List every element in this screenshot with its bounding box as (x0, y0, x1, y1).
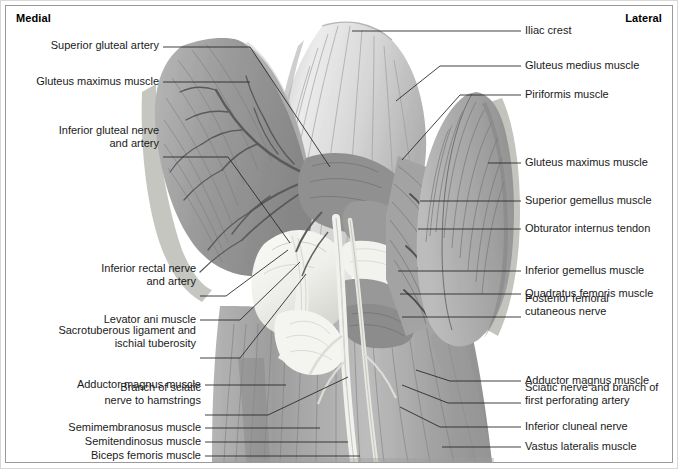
label-branch-of-sciatic-nerve-to-hamstrings: Branch of sciatic nerve to hamstrings (104, 381, 201, 407)
label-inferior-gemellus-muscle: Inferior gemellus muscle (525, 264, 644, 277)
label-inferior-rectal-nerve-and-artery: Inferior rectal nerve and artery (101, 262, 196, 288)
label-posterior-femoral-cutaneous-nerve: Posterior femoral cutaneous nerve (525, 292, 609, 318)
label-inferior-cluneal-nerve: Inferior cluneal nerve (525, 420, 628, 433)
label-sciatic-nerve-and-branch-of-first-perforating-artery: Sciatic nerve and branch of first perfor… (525, 381, 658, 407)
label-semitendinosus-muscle: Semitendinosus muscle (85, 435, 201, 448)
orientation-label-lateral: Lateral (625, 12, 662, 24)
orientation-label-medial: Medial (16, 12, 51, 24)
label-semimembranosus-muscle: Semimembranosus muscle (68, 421, 201, 434)
label-inferior-gluteal-nerve-and-artery: Inferior gluteal nerve and artery (59, 124, 159, 150)
label-superior-gemellus-muscle: Superior gemellus muscle (525, 194, 652, 207)
anatomy-figure: Medial Lateral Superior gluteal arteryGl… (0, 0, 678, 469)
label-vastus-lateralis-muscle: Vastus lateralis muscle (525, 440, 637, 453)
label-iliac-crest: Iliac crest (525, 24, 571, 37)
label-gluteus-maximus-muscle-left: Gluteus maximus muscle (36, 75, 159, 88)
label-sacrotuberous-ligament-and-ischial-tuberosity: Sacrotuberous ligament and ischial tuber… (58, 324, 196, 350)
label-gluteus-medius-muscle: Gluteus medius muscle (525, 59, 639, 72)
label-gluteus-maximus-muscle-right: Gluteus maximus muscle (525, 156, 648, 169)
label-biceps-femoris-muscle: Biceps femoris muscle (91, 449, 201, 462)
label-superior-gluteal-artery: Superior gluteal artery (51, 39, 159, 52)
label-obturator-internus-tendon: Obturator internus tendon (525, 222, 650, 235)
label-piriformis-muscle: Piriformis muscle (525, 88, 609, 101)
